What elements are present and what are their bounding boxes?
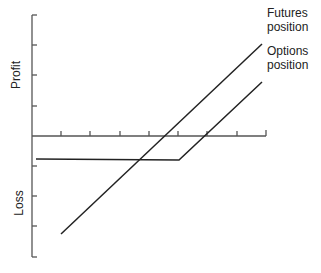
options-label-line1: Options <box>267 44 308 58</box>
payoff-chart <box>0 0 321 273</box>
futures-line <box>61 44 262 234</box>
options-label-line2: position <box>267 58 308 72</box>
loss-label: Loss <box>12 190 26 215</box>
options-line <box>36 82 262 160</box>
axes <box>32 15 266 257</box>
futures-label: Futures position <box>267 6 308 34</box>
x-ticks <box>61 130 266 136</box>
profit-label: Profit <box>9 61 23 89</box>
futures-label-line2: position <box>267 20 308 34</box>
options-label: Options position <box>267 44 308 72</box>
futures-label-line1: Futures <box>267 6 308 20</box>
